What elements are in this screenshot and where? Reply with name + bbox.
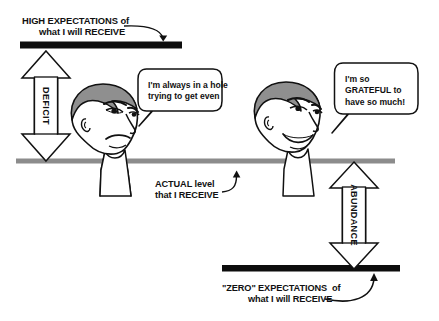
speech-left-line1: I'm always in a hole: [148, 80, 228, 91]
actual-level-line2: that I RECEIVE: [155, 190, 218, 201]
character-right-happy: [254, 82, 322, 196]
actual-level-baseline: [16, 159, 395, 164]
high-expectations-arrow: [124, 26, 163, 38]
actual-level-arrowhead: [233, 171, 241, 178]
illustration-canvas: HIGH EXPECTATIONS ofwhat I will RECEIVE …: [0, 0, 439, 321]
zero-expectations-line1: "ZERO" EXPECTATIONS of: [222, 283, 340, 293]
zero-expectations-label: "ZERO" EXPECTATIONS ofwhat I will RECEIV…: [222, 283, 340, 305]
speech-right-line3: have so much!: [345, 97, 405, 108]
speech-right-line1: I'm so: [345, 74, 405, 85]
deficit-label: DEFICIT: [41, 87, 51, 125]
actual-level-line1: ACTUAL level: [155, 179, 214, 189]
high-expectations-line1: HIGH EXPECTATIONS of: [22, 15, 129, 26]
actual-level-arrow: [222, 176, 237, 192]
high-expectations-line2: what I will RECEIVE: [22, 26, 129, 37]
high-expectation-bar: [20, 42, 182, 49]
speech-right-text: I'm soGRATEFUL tohave so much!: [345, 74, 405, 108]
actual-level-label: ACTUAL levelthat I RECEIVE: [155, 179, 218, 201]
zero-expectations-arrowhead: [370, 273, 378, 281]
zero-expectation-bar: [222, 265, 400, 272]
character-left-unhappy: [71, 84, 139, 196]
speech-left-line2: trying to get even: [148, 91, 228, 102]
diagram-artwork: [0, 0, 439, 321]
speech-left-text: I'm always in a holetrying to get even: [148, 80, 228, 103]
high-expectations-label: HIGH EXPECTATIONS ofwhat I will RECEIVE: [22, 15, 129, 37]
speech-right-line2: GRATEFUL to: [345, 85, 405, 96]
high-expectations-arrowhead: [159, 36, 167, 42]
zero-expectations-line2: what I will RECEIVE: [222, 294, 340, 305]
abundance-label: ABUNDANCE: [349, 184, 359, 246]
